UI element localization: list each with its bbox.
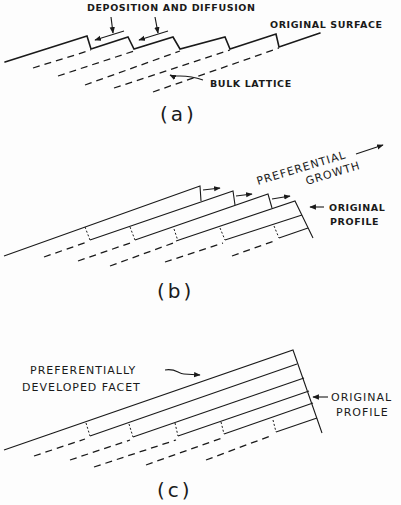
facet-pointer	[165, 370, 200, 375]
bulk-lattice-lines-b	[44, 240, 277, 266]
deposition-arrows	[95, 17, 168, 40]
caption-a: (a)	[160, 102, 197, 126]
facet-top	[4, 186, 201, 256]
caption-b: (b)	[157, 279, 194, 303]
label-developed-facet: DEVELOPED FACET	[22, 381, 141, 394]
label-original-c: ORIGINAL	[331, 391, 392, 404]
panel-c: PREFERENTIALLY DEVELOPED FACET ORIGINAL …	[4, 350, 392, 502]
panel-b: PREFERENTIAL GROWTH ORIGINAL PROFILE (b)	[4, 145, 385, 303]
bulk-lattice-lines-c	[34, 435, 273, 467]
crystal-growth-diagram: DEPOSITION AND DIFFUSION ORIGINAL SURFAC…	[0, 0, 401, 505]
bulk-lattice-pointer	[170, 75, 203, 80]
caption-c: (c)	[157, 478, 193, 502]
stepped-surface	[5, 33, 320, 62]
label-original-surface: ORIGINAL SURFACE	[270, 19, 383, 30]
figure: DEPOSITION AND DIFFUSION ORIGINAL SURFAC…	[0, 0, 401, 505]
label-profile-b: PROFILE	[330, 216, 379, 227]
label-deposition-diffusion: DEPOSITION AND DIFFUSION	[87, 2, 256, 13]
label-preferentially: PREFERENTIALLY	[30, 364, 136, 377]
panel-a: DEPOSITION AND DIFFUSION ORIGINAL SURFAC…	[5, 2, 383, 126]
label-original-b: ORIGINAL	[329, 202, 385, 213]
label-bulk-lattice: BULK LATTICE	[210, 78, 292, 89]
label-profile-c: PROFILE	[336, 406, 389, 419]
